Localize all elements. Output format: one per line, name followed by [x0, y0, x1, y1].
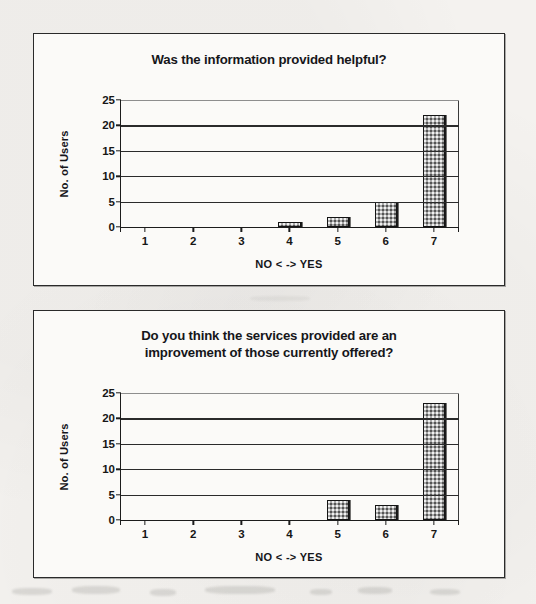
bar-cell-6: 6 — [362, 100, 410, 227]
bar-cell-1: 1 — [121, 393, 169, 520]
gridline-20 — [121, 418, 459, 419]
chart-panel-1: Was the information provided helpful? No… — [33, 33, 505, 286]
scan-artifact — [72, 586, 120, 594]
bar-cell-4: 4 — [265, 393, 313, 520]
bar-cell-2: 2 — [169, 100, 217, 227]
gridline-25 — [121, 100, 459, 101]
y-tick-label-10: 10 — [102, 463, 115, 475]
y-tick-mark-20 — [116, 418, 121, 419]
chart-1-x-axis-label: NO < -> YES — [120, 228, 458, 270]
scan-artifact — [358, 587, 392, 594]
y-tick-label-25: 25 — [102, 94, 115, 106]
scan-artifact — [430, 589, 460, 595]
y-tick-label-10: 10 — [102, 170, 115, 182]
bar-5 — [327, 500, 349, 520]
scan-artifact — [250, 296, 310, 301]
chart-1-bar-series: 1234567 — [121, 100, 458, 227]
y-tick-label-20: 20 — [102, 119, 115, 131]
bar-6 — [375, 505, 397, 520]
y-tick-label-15: 15 — [102, 438, 115, 450]
y-tick-label-0: 0 — [109, 514, 115, 526]
y-tick-mark-20 — [116, 125, 121, 126]
gridline-5 — [121, 495, 459, 496]
chart-2-title: Do you think the services provided are a… — [34, 327, 504, 361]
scan-artifact — [205, 586, 275, 594]
chart-2-title-line-1: Do you think the services provided are a… — [34, 327, 504, 344]
chart-panel-2: Do you think the services provided are a… — [33, 310, 505, 578]
bar-7 — [423, 115, 445, 227]
chart-2-plot: 1234567 0510152025 — [120, 393, 458, 521]
bar-cell-5: 5 — [314, 393, 362, 520]
bar-cell-1: 1 — [121, 100, 169, 227]
y-tick-label-20: 20 — [102, 412, 115, 424]
y-tick-mark-5 — [116, 494, 121, 495]
gridline-15 — [121, 444, 459, 445]
y-tick-label-5: 5 — [109, 196, 115, 208]
y-tick-mark-25 — [116, 99, 121, 100]
bar-6 — [375, 202, 397, 227]
bar-cell-4: 4 — [265, 100, 313, 227]
chart-1-y-axis-label: No. of Users — [56, 100, 72, 228]
y-tick-mark-15 — [116, 150, 121, 151]
chart-2-title-line-2: improvement of those currently offered? — [34, 344, 504, 361]
bar-cell-2: 2 — [169, 393, 217, 520]
bar-5 — [327, 217, 349, 227]
bar-cell-3: 3 — [217, 393, 265, 520]
gridline-25 — [121, 393, 459, 394]
y-tick-label-25: 25 — [102, 387, 115, 399]
chart-2-y-axis-label: No. of Users — [56, 393, 72, 521]
chart-2-x-axis-label: NO < -> YES — [120, 521, 458, 563]
chart-2-bar-series: 1234567 — [121, 393, 458, 520]
y-tick-mark-25 — [116, 392, 121, 393]
chart-1-title: Was the information provided helpful? — [34, 51, 504, 68]
y-tick-mark-10 — [116, 175, 121, 176]
scan-artifact — [150, 589, 176, 596]
chart-2-plot-area: No. of Users 1234567 0510152025 NO < -> … — [34, 383, 504, 577]
gridline-15 — [121, 151, 459, 152]
bar-cell-6: 6 — [362, 393, 410, 520]
y-tick-mark-15 — [116, 443, 121, 444]
y-tick-label-15: 15 — [102, 145, 115, 157]
scan-artifact — [12, 588, 52, 595]
bar-cell-7: 7 — [410, 100, 458, 227]
gridline-10 — [121, 469, 459, 470]
gridline-5 — [121, 202, 459, 203]
chart-1-plot-area: No. of Users 1234567 0510152025 NO < -> … — [34, 90, 504, 285]
y-tick-label-0: 0 — [109, 221, 115, 233]
gridline-10 — [121, 176, 459, 177]
bar-cell-3: 3 — [217, 100, 265, 227]
bar-cell-7: 7 — [410, 393, 458, 520]
scanned-page: Was the information provided helpful? No… — [0, 0, 536, 604]
bar-cell-5: 5 — [314, 100, 362, 227]
gridline-20 — [121, 125, 459, 126]
scan-artifact — [310, 589, 332, 595]
y-tick-mark-10 — [116, 468, 121, 469]
bar-7 — [423, 403, 445, 520]
chart-1-plot: 1234567 0510152025 — [120, 100, 458, 228]
y-tick-label-5: 5 — [109, 489, 115, 501]
y-tick-mark-5 — [116, 201, 121, 202]
